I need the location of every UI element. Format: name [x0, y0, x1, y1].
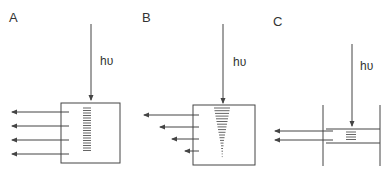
figure-canvas: A hυ B hυ — [0, 0, 390, 175]
photon-label-c: hυ — [360, 59, 373, 73]
excitation-stripes-a — [83, 108, 91, 151]
panel-a: A hυ — [9, 10, 120, 163]
photon-label-b: hυ — [233, 55, 246, 69]
photon-label-a: hυ — [100, 54, 113, 68]
panel-label-a: A — [9, 10, 18, 25]
panel-label-b: B — [142, 10, 151, 25]
panel-c: C hυ — [273, 14, 380, 166]
panel-b: B hυ — [142, 10, 255, 165]
excitation-stripes-c — [346, 132, 356, 140]
panel-label-c: C — [273, 14, 282, 29]
excitation-stripes-b — [214, 108, 230, 157]
